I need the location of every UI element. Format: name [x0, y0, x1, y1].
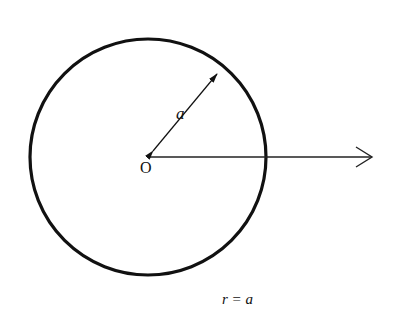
origin-label: O: [140, 160, 152, 176]
equation-caption: r = a: [222, 292, 253, 307]
diagram-canvas: a O r = a: [0, 0, 396, 315]
polar-axis-arrow: [148, 147, 372, 167]
radius-dimension-line: [153, 74, 217, 151]
diagram-svg: [0, 0, 396, 315]
radius-label: a: [176, 105, 185, 122]
